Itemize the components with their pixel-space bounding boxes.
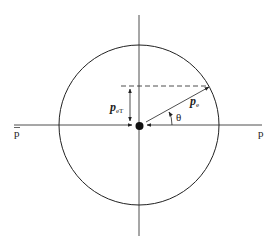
label-pe: pe [189, 94, 199, 109]
label-p: p [258, 127, 264, 139]
label-theta: θ [176, 111, 181, 123]
theta-arc [169, 112, 172, 125]
center-particle [136, 122, 144, 130]
diagram-canvas: p p pe peT θ [0, 0, 278, 248]
label-p-bar: p [14, 127, 20, 139]
label-peT: peT [109, 100, 124, 115]
